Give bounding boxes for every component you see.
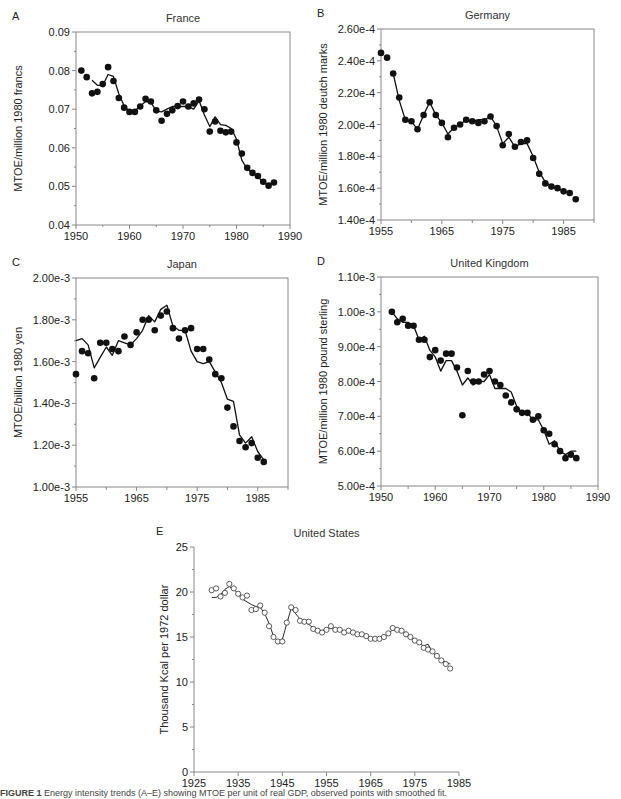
figure-canvas: AFrance0.040.050.060.070.080.09195019601… [0, 0, 621, 799]
data-point [271, 634, 276, 639]
data-point [139, 317, 146, 324]
y-tick-label: 15 [176, 631, 188, 643]
data-point [432, 112, 439, 119]
panel-letter: C [12, 256, 20, 268]
data-point [410, 322, 417, 329]
data-point [253, 607, 258, 612]
data-point [121, 333, 128, 340]
data-point [417, 640, 422, 645]
y-axis-label: MTOE/million 1980 francs [12, 65, 24, 192]
y-tick-label: 1.80e-3 [33, 314, 70, 326]
data-point [381, 634, 386, 639]
data-point [182, 327, 189, 334]
data-point [434, 653, 439, 658]
x-tick-label: 1970 [171, 230, 195, 242]
data-point [540, 427, 547, 434]
data-point [222, 590, 227, 595]
data-point [394, 319, 401, 326]
data-point [148, 98, 155, 105]
data-point [399, 316, 406, 323]
data-point [99, 81, 106, 88]
data-point [408, 634, 413, 639]
data-point [255, 173, 262, 180]
data-point [266, 624, 271, 629]
caption-label: FIGURE 1 [0, 788, 42, 798]
data-point [437, 357, 444, 364]
y-tick-label: 20 [176, 586, 188, 598]
data-point [443, 661, 448, 666]
y-tick-label: 1.60e-4 [338, 182, 375, 194]
data-point [465, 368, 472, 375]
data-point [158, 117, 165, 124]
data-point [239, 150, 246, 157]
chart-panel-e: EUnited States05101520251925193519451955… [156, 525, 471, 789]
data-point [378, 50, 385, 57]
data-point [262, 610, 267, 615]
data-point [493, 123, 500, 130]
data-point [459, 412, 466, 419]
data-point [557, 448, 564, 455]
caption-text: Energy intensity trends (A–E) showing MT… [44, 788, 447, 798]
data-point [548, 183, 555, 190]
data-point [454, 364, 461, 371]
data-point [554, 185, 561, 192]
x-tick-label: 1970 [477, 491, 501, 503]
data-point [132, 109, 139, 116]
data-point [432, 347, 439, 354]
y-tick-label: 1.80e-4 [338, 150, 375, 162]
data-point [212, 118, 219, 125]
data-point [513, 406, 520, 413]
data-point [151, 327, 158, 334]
data-point [542, 180, 549, 187]
data-point [414, 126, 421, 133]
data-point [79, 348, 86, 355]
data-point [196, 96, 203, 103]
data-point [492, 378, 499, 385]
chart-panel-d: DUnited Kingdom5.00e-46.00e-47.00e-48.00… [317, 255, 610, 503]
data-point [169, 107, 176, 114]
y-tick-label: 0.06 [49, 142, 70, 154]
x-tick-label: 1980 [224, 230, 248, 242]
data-point [188, 325, 195, 332]
y-tick-label: 2.20e-4 [338, 87, 375, 99]
data-point [551, 441, 558, 448]
y-tick-label: 2.00e-3 [33, 272, 70, 284]
data-point [524, 410, 531, 417]
data-point [396, 94, 403, 101]
data-point [530, 155, 537, 162]
chart-title: Japan [167, 258, 197, 270]
data-point [518, 139, 525, 146]
x-tick-label: 1950 [369, 491, 393, 503]
data-point [164, 308, 171, 315]
y-tick-label: 25 [176, 541, 188, 553]
data-point [218, 375, 225, 382]
data-point [499, 142, 506, 149]
data-point [133, 329, 140, 336]
data-point [190, 100, 197, 107]
x-tick-label: 1985 [447, 777, 471, 789]
plot-frame [76, 32, 290, 225]
data-point [97, 339, 104, 346]
data-point [508, 399, 515, 406]
data-point [200, 346, 207, 353]
data-point [73, 371, 80, 378]
data-point [306, 619, 311, 624]
data-point [180, 98, 187, 105]
data-point [451, 124, 458, 131]
data-point [535, 413, 542, 420]
data-point [230, 423, 237, 430]
data-point [194, 346, 201, 353]
data-point [421, 336, 428, 343]
data-point [91, 375, 98, 382]
panel-letter: A [12, 10, 20, 22]
data-point [546, 430, 553, 437]
x-tick-label: 1990 [586, 491, 610, 503]
y-tick-label: 1.20e-3 [33, 439, 70, 451]
y-tick-label: 0.05 [49, 180, 70, 192]
x-tick-label: 1960 [117, 230, 141, 242]
data-point [109, 346, 116, 353]
data-point [386, 631, 391, 636]
data-point [324, 627, 329, 632]
data-point [231, 586, 236, 591]
data-point [390, 70, 397, 77]
